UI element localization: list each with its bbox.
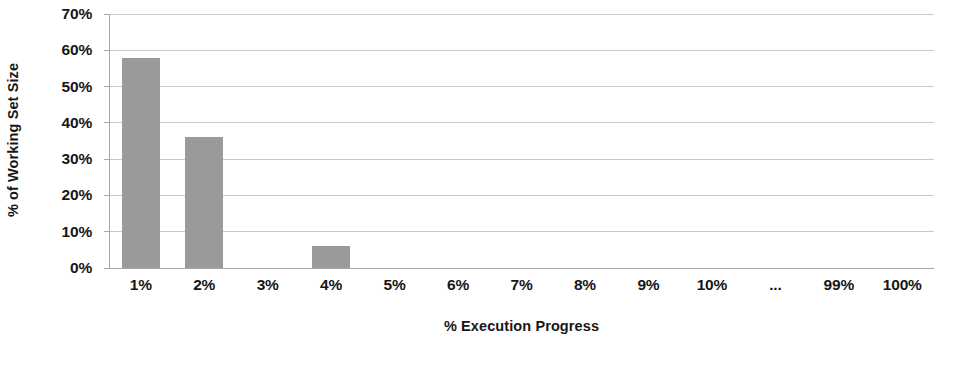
x-axis-tick-label: 99% [824, 276, 854, 294]
bar-slot [617, 14, 680, 268]
bar-slot [807, 14, 870, 268]
bar-slot [363, 14, 426, 268]
y-axis-tick-mark [104, 159, 109, 160]
x-axis-tick-label: 3% [257, 276, 279, 294]
y-axis-tick-label: 60% [62, 41, 92, 59]
y-axis-tick-label: 50% [62, 78, 92, 96]
plot-area [109, 14, 934, 268]
bar[interactable] [122, 58, 160, 268]
bar-slot [109, 14, 172, 268]
bar-slot [236, 14, 299, 268]
y-axis-tick-mark [104, 231, 109, 232]
y-axis-tick-labels: 0%10%20%30%40%50%60%70% [26, 14, 100, 268]
y-axis-tick-label: 20% [62, 186, 92, 204]
y-axis-title-text: % of Working Set Size [5, 63, 21, 217]
x-axis-tick-label: 9% [637, 276, 659, 294]
x-axis-tick-label: 4% [320, 276, 342, 294]
y-axis-tick-mark [104, 195, 109, 196]
y-axis-tick-label: 10% [62, 223, 92, 241]
bar-chart: % of Working Set Size 0%10%20%30%40%50%6… [0, 0, 962, 365]
y-axis-tick-mark [104, 122, 109, 123]
x-axis-tick-label: 5% [384, 276, 406, 294]
y-axis-tick-label: 30% [62, 150, 92, 168]
bar-slot [744, 14, 807, 268]
bar[interactable] [312, 246, 350, 268]
bar-slot [490, 14, 553, 268]
y-axis-tick-label: 70% [62, 5, 92, 23]
bar-slot [172, 14, 235, 268]
y-axis-tick-mark [104, 50, 109, 51]
bar-slot [680, 14, 743, 268]
x-axis-tick-label: 100% [883, 276, 922, 294]
x-axis-tick-labels: 1%2%3%4%5%6%7%8%9%10%...99%100% [109, 276, 934, 302]
x-axis-tick-label: 2% [193, 276, 215, 294]
y-axis-tick-mark [104, 14, 109, 15]
y-axis-tick-mark [104, 86, 109, 87]
x-axis-tick-label: 10% [697, 276, 727, 294]
bar-slot [871, 14, 934, 268]
x-axis-tick-label: 1% [130, 276, 152, 294]
y-axis-title: % of Working Set Size [0, 0, 26, 280]
bar-slot [553, 14, 616, 268]
x-axis-tick-label: 7% [510, 276, 532, 294]
bars-layer [109, 14, 934, 268]
bar-slot [426, 14, 489, 268]
x-axis-tick-label: ... [769, 276, 781, 294]
y-axis-tick-label: 0% [70, 259, 92, 277]
bar-slot [299, 14, 362, 268]
bar[interactable] [185, 137, 223, 268]
x-axis-tick-label: 8% [574, 276, 596, 294]
x-axis-tick-label: 6% [447, 276, 469, 294]
y-axis-tick-mark [104, 268, 109, 269]
y-axis-tick-label: 40% [62, 114, 92, 132]
x-axis-title: % Execution Progress [109, 318, 934, 334]
